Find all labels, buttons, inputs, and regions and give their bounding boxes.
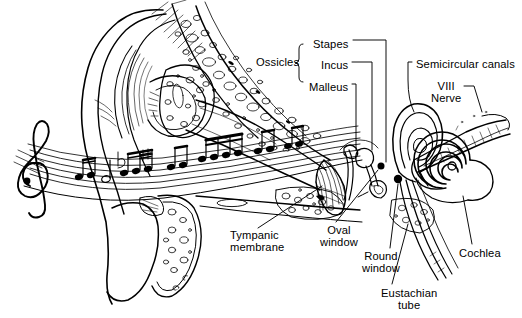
- label-oval-window: Oval window: [320, 224, 358, 249]
- label-malleus: Malleus: [309, 81, 348, 93]
- label-viii-nerve: VIII Nerve: [431, 80, 461, 105]
- oval-window-dot: [378, 163, 385, 170]
- ear-anatomy-figure: Ossicles Stapes Incus Malleus Semicircul…: [0, 0, 522, 318]
- label-stapes: Stapes: [313, 38, 348, 50]
- label-cochlea: Cochlea: [459, 247, 501, 259]
- label-eustachian-tube: Eustachian tube: [381, 287, 437, 312]
- label-tympanic-membrane: Tympanic membrane: [230, 229, 284, 254]
- label-semicircular-canals: Semicircular canals: [416, 58, 515, 70]
- label-round-window: Round window: [362, 250, 400, 275]
- label-incus: Incus: [321, 59, 348, 71]
- ear-diagram-artwork: [0, 0, 522, 318]
- round-window-dot: [394, 175, 402, 183]
- label-ossicles: Ossicles: [256, 56, 299, 68]
